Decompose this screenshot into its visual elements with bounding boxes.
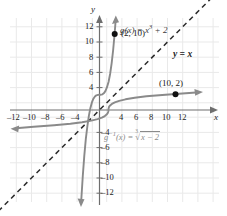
g-inverse-superscript: −1 [108,130,116,137]
point-marker-2-10 [112,31,118,37]
xtick--6: –6 [56,113,65,122]
cube-root-symbol: 3√x − 2 [135,133,160,142]
ytick-12: 12 [85,22,94,31]
label-y-equals-x: y = x [173,50,192,60]
ytick-8: 8 [89,53,93,62]
xtick-12: 12 [178,113,187,122]
annotation-point-2-10: (2, 10) [121,29,145,38]
curve-g-arrow-up [112,16,119,25]
ytick--10: –10 [101,173,114,182]
graph-figure: y x –12 –10 –8 –6 –4 4 6 8 10 12 12 10 8… [0,0,227,216]
curve-g-inverse-arrow-left [11,125,20,132]
curve-label-g-inverse: g−1(x) = 3√x − 2 [104,131,160,141]
radicand: x − 2 [140,131,160,142]
ytick-6: 6 [89,68,93,77]
g-inverse-mid: (x) = [116,132,135,142]
xtick--10: –10 [23,113,36,122]
xtick--8: –8 [41,113,50,122]
xtick--4: –4 [71,113,80,122]
annotation-point-10-2: (10, 2) [159,79,183,88]
ytick-10: 10 [85,37,94,46]
ytick--6: –6 [101,143,110,152]
xtick-6: 6 [134,113,138,122]
curve-g-arrow-down [78,198,85,207]
ytick-4: 4 [89,83,93,92]
xtick-4: 4 [119,113,123,122]
radical-index: 3 [135,129,138,135]
xtick-8: 8 [149,113,153,122]
ytick--12: –12 [101,188,114,197]
point-marker-10-2 [173,91,179,97]
y-axis-label: y [91,5,95,14]
xtick--12: –12 [7,113,20,122]
x-axis-label: x [214,113,218,122]
curve-label-g-tail: + 2 [152,25,167,35]
xtick-10: 10 [162,113,171,122]
curve-g-inverse-arrow-right [194,89,203,96]
ytick--8: –8 [101,158,110,167]
graph-canvas [0,0,227,216]
